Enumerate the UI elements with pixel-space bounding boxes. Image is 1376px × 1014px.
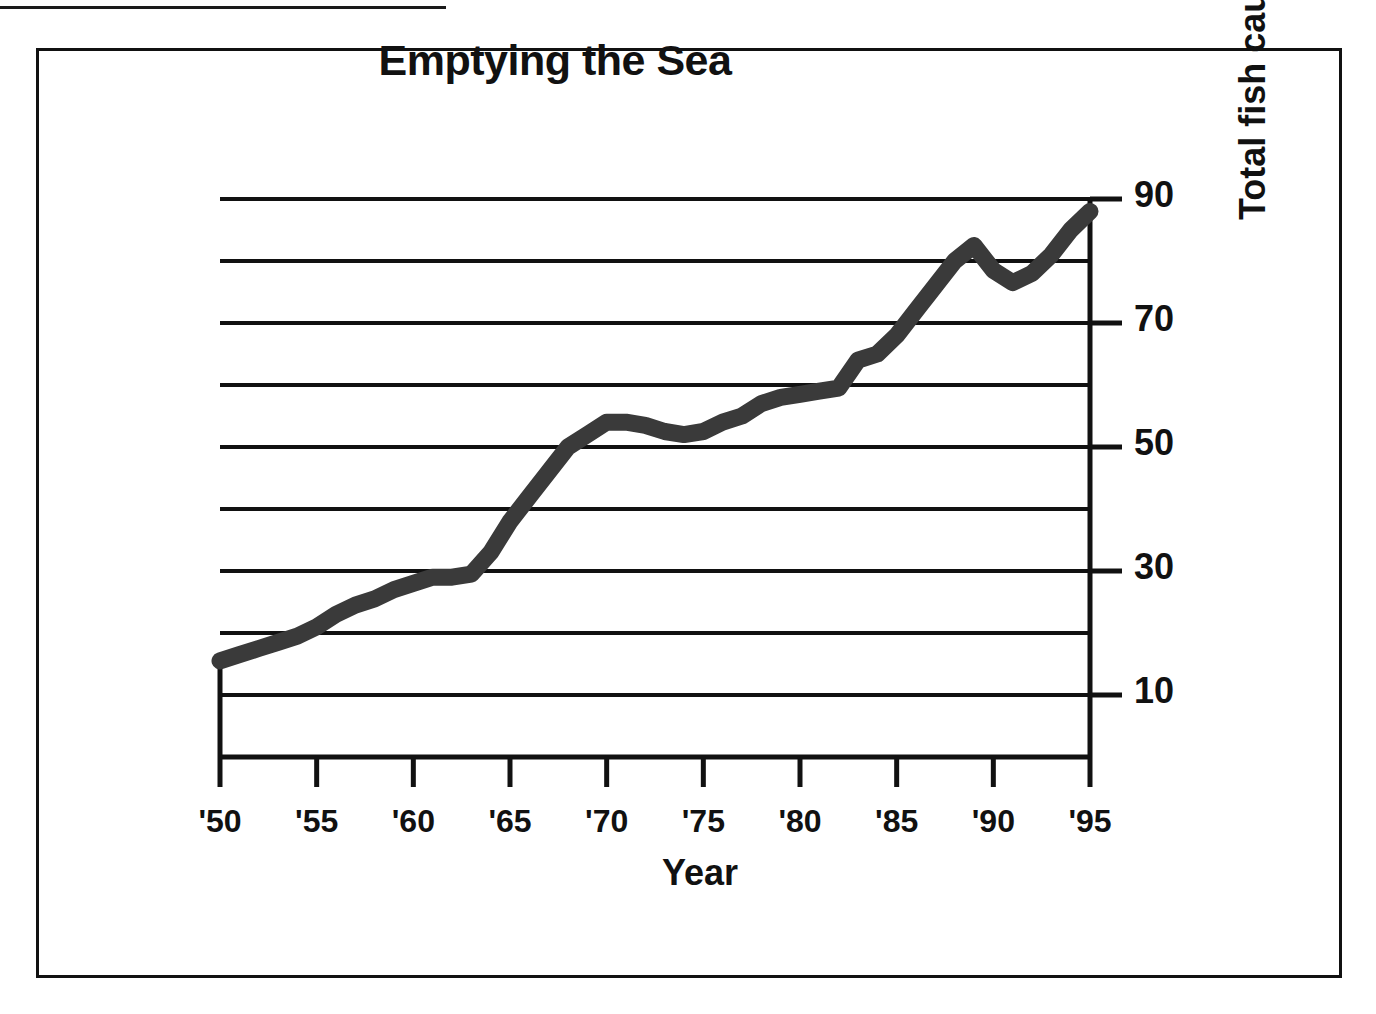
x-axis-title: Year [480,852,920,894]
x-tick-label-1990: '90 [948,805,1038,837]
x-tick-label-1995: '95 [1045,805,1135,837]
x-tick-label-1980: '80 [755,805,845,837]
x-tick-label-1950: '50 [175,805,265,837]
x-tick-label-1985: '85 [852,805,942,837]
x-tick-label-1975: '75 [658,805,748,837]
x-tick-label-1965: '65 [465,805,555,837]
y-tick-label-50: 50 [1134,425,1174,461]
y-tick-label-90: 90 [1134,177,1174,213]
y-tick-label-30: 30 [1134,549,1174,585]
chart-title: Emptying the Sea [0,36,1110,85]
top-rule-divider [0,6,446,9]
x-tick-label-1960: '60 [368,805,458,837]
y-axis-title: Total fish caught in millions of tons [1232,0,1292,220]
figure-page: Emptying the Sea 1030507090 '50'55'60'65… [0,0,1376,1014]
x-tick-label-1970: '70 [562,805,652,837]
y-tick-label-70: 70 [1134,301,1174,337]
y-tick-label-10: 10 [1134,673,1174,709]
x-tick-label-1955: '55 [272,805,362,837]
